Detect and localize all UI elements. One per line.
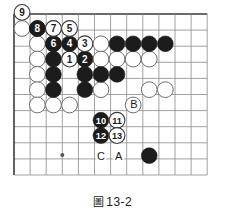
- star-point: [60, 153, 64, 157]
- move-number-8: 8: [35, 23, 41, 34]
- move-number-1: 1: [67, 54, 73, 65]
- stone-white: [141, 82, 157, 98]
- go-diagram-figure: 12345678910111213BCA 圖13-2: [0, 0, 225, 218]
- black-stone: [46, 51, 62, 67]
- stone-white: [29, 66, 45, 82]
- numbered-stone-4: 4: [62, 36, 78, 52]
- stone-white: [14, 21, 30, 37]
- numbered-stone-10: 10: [93, 112, 109, 128]
- point-label-A: A: [115, 150, 123, 162]
- stone-black: [157, 36, 173, 52]
- white-stone: [141, 51, 157, 67]
- black-stone: [141, 36, 157, 52]
- white-stone: [62, 97, 78, 113]
- go-board: 12345678910111213BCA: [0, 0, 225, 218]
- stone-white: [93, 51, 109, 67]
- stone-white: [29, 97, 45, 113]
- numbered-stone-5: 5: [62, 21, 78, 37]
- stone-black: [77, 66, 93, 82]
- black-stone: [125, 36, 141, 52]
- stone-black: [46, 51, 62, 67]
- black-stone: [141, 148, 157, 164]
- move-number-12: 12: [96, 131, 106, 141]
- move-number-4: 4: [67, 38, 73, 49]
- numbered-stone-12: 12: [93, 128, 109, 144]
- stone-black: [46, 66, 62, 82]
- stone-white: [29, 82, 45, 98]
- white-stone: [29, 36, 45, 52]
- white-stone: [93, 82, 109, 98]
- black-stone: [109, 36, 125, 52]
- stone-black: [141, 36, 157, 52]
- move-number-13: 13: [112, 131, 122, 141]
- white-stone: [29, 97, 45, 113]
- move-number-7: 7: [51, 23, 57, 34]
- white-stone: [157, 82, 173, 98]
- stone-black: [109, 66, 125, 82]
- white-stone: [125, 51, 141, 67]
- numbered-stone-11: 11: [109, 112, 125, 128]
- numbered-stone-6: 6: [46, 36, 62, 52]
- numbered-stone-1: 1: [62, 51, 78, 67]
- white-stone: [29, 82, 45, 98]
- stone-black: [141, 148, 157, 164]
- white-stone: [93, 51, 109, 67]
- stones-layer: [14, 21, 173, 164]
- black-stone: [77, 66, 93, 82]
- numbered-stone-3: 3: [77, 36, 93, 52]
- move-number-11: 11: [112, 116, 122, 126]
- black-stone: [46, 66, 62, 82]
- numbered-stone-8: 8: [29, 21, 45, 37]
- stone-white: [29, 36, 45, 52]
- stone-white: [157, 82, 173, 98]
- stone-black: [77, 82, 93, 98]
- numbered-stone-13: 13: [109, 128, 125, 144]
- stone-black: [93, 66, 109, 82]
- white-stone: [109, 51, 125, 67]
- white-stone: [93, 36, 109, 52]
- move-number-9: 9: [19, 7, 25, 18]
- stone-white: [29, 51, 45, 67]
- move-number-10: 10: [96, 116, 106, 126]
- stone-white: [46, 97, 62, 113]
- stone-white: [93, 36, 109, 52]
- move-number-6: 6: [51, 38, 57, 49]
- stone-black: [46, 82, 62, 98]
- numbered-stone-9: 9: [14, 4, 30, 20]
- numbered-stone-2: 2: [77, 51, 93, 67]
- white-stone: [29, 66, 45, 82]
- point-label-C: C: [97, 150, 105, 162]
- black-stone: [157, 36, 173, 52]
- caption-number: 13-2: [106, 195, 132, 209]
- stone-black: [109, 36, 125, 52]
- stone-white: [109, 51, 125, 67]
- white-stone: [14, 21, 30, 37]
- black-stone: [46, 82, 62, 98]
- black-stone: [109, 66, 125, 82]
- figure-caption: 圖13-2: [0, 193, 225, 209]
- move-number-5: 5: [67, 23, 73, 34]
- numbered-stone-7: 7: [46, 21, 62, 37]
- stone-white: [62, 97, 78, 113]
- stone-white: [141, 51, 157, 67]
- white-stone: [29, 51, 45, 67]
- white-stone: [46, 97, 62, 113]
- move-number-3: 3: [82, 38, 88, 49]
- point-label-B: B: [130, 98, 137, 110]
- white-stone: [141, 82, 157, 98]
- stone-black: [125, 36, 141, 52]
- black-stone: [93, 66, 109, 82]
- stone-white: [93, 82, 109, 98]
- caption-glyph: 圖: [93, 196, 107, 209]
- move-number-2: 2: [82, 54, 88, 65]
- stone-white: [125, 51, 141, 67]
- black-stone: [77, 82, 93, 98]
